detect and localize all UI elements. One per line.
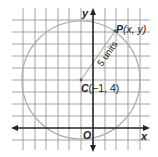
point-p-label: P(x, y)	[116, 23, 146, 35]
y-axis-down-arrow-icon	[90, 145, 96, 152]
y-axis-label: y	[81, 7, 89, 19]
center-point-dot	[80, 79, 83, 82]
center-point-coords: (−1, 4)	[89, 82, 120, 94]
x-axis	[11, 125, 150, 131]
center-point-label: C(−1, 4)	[81, 82, 119, 94]
origin-label: O	[83, 129, 91, 141]
x-axis-label: x	[140, 130, 148, 142]
x-axis-left-arrow-icon	[11, 125, 18, 131]
y-axis-up-arrow-icon	[90, 8, 96, 15]
coordinate-plane: y x O P(x, y) C(−1, 4) 5 units	[0, 0, 158, 157]
point-p-coords: (x, y)	[123, 23, 146, 35]
